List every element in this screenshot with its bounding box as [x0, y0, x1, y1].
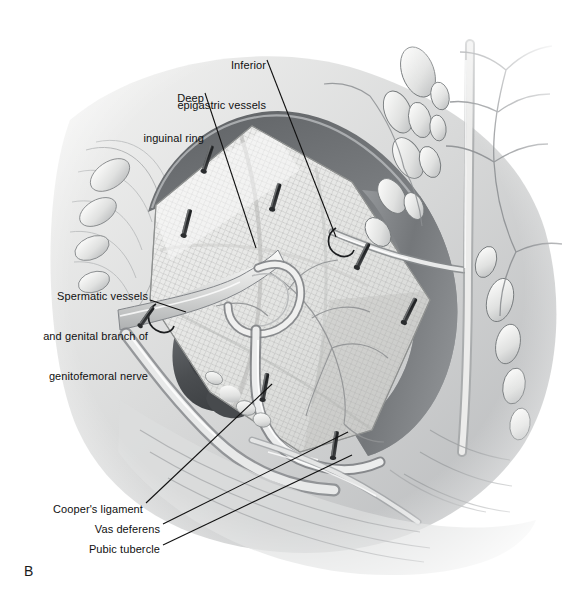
label-line-2: and genital branch of [8, 330, 148, 343]
figure-panel-b: Inferior epigastric vessels Deep inguina… [0, 0, 571, 598]
label-spermatic-vessels-genitofemoral: Spermatic vessels and genital branch of … [8, 264, 148, 409]
label-vas-deferens: Vas deferens [60, 523, 160, 536]
label-line-3: genitofemoral nerve [8, 370, 148, 383]
label-line-1: Spermatic vessels [8, 290, 148, 303]
label-deep-inguinal-ring: Deep inguinal ring [112, 66, 204, 172]
label-pubic-tubercle: Pubic tubercle [60, 543, 160, 556]
label-coopers-ligament: Cooper's ligament [30, 503, 143, 516]
label-line-1: Deep [112, 92, 204, 105]
label-line-2: inguinal ring [112, 132, 204, 145]
panel-letter: B [24, 563, 34, 579]
